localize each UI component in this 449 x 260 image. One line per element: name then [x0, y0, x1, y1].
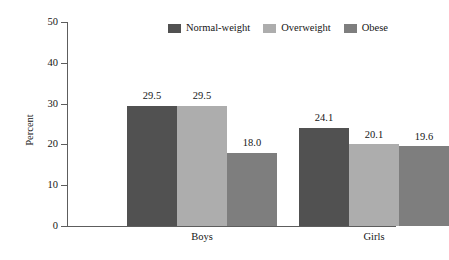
- plot-area: 01020304050 29.529.518.024.120.119.6: [67, 22, 396, 226]
- bar-value-label: 29.5: [143, 91, 161, 102]
- bar: 24.1: [299, 128, 349, 226]
- bar: 29.5: [177, 106, 227, 226]
- bar: 19.6: [399, 146, 449, 226]
- bar-value-label: 24.1: [315, 113, 333, 124]
- bar: 20.1: [349, 144, 399, 226]
- x-axis-line: [67, 226, 396, 227]
- bars-layer: 29.529.518.024.120.119.6: [67, 22, 396, 226]
- bar: 29.5: [127, 106, 177, 226]
- bar-value-label: 20.1: [365, 130, 383, 141]
- y-tick-label: 0: [53, 221, 58, 232]
- bar-value-label: 19.6: [415, 132, 433, 143]
- bar-value-label: 18.0: [243, 138, 261, 149]
- bar-value-label: 29.5: [193, 91, 211, 102]
- y-axis-title: Percent: [25, 114, 36, 146]
- x-axis-group-label: Boys: [191, 232, 213, 243]
- x-axis-group-label: Girls: [364, 232, 385, 243]
- y-tick-label: 40: [48, 58, 59, 69]
- bar: 18.0: [227, 153, 277, 226]
- y-tick-label: 50: [48, 17, 59, 28]
- y-tick-label: 30: [48, 98, 59, 109]
- y-tick-mark: [61, 226, 67, 227]
- y-tick-label: 20: [48, 139, 59, 150]
- y-tick-label: 10: [48, 180, 59, 191]
